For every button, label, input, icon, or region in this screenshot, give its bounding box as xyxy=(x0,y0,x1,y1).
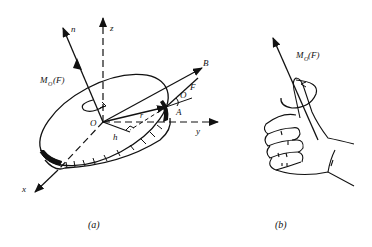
diagram-canvas: n z M O (F) B F O A O r h y x (a) xyxy=(0,0,372,247)
caption-b: (b) xyxy=(275,219,287,231)
hand-drawing xyxy=(264,78,354,186)
label-B: B xyxy=(203,58,209,68)
label-angle-O: O xyxy=(180,90,187,100)
label-moment-M: M xyxy=(39,75,48,85)
figure-a-moment-of-force: n z M O (F) B F O A O r h y x (a) xyxy=(21,18,218,231)
label-n: n xyxy=(71,24,76,34)
normal-inner-arrowhead xyxy=(73,58,82,70)
label-F: F xyxy=(189,82,196,92)
caption-a: (a) xyxy=(88,219,100,231)
label-moment-arg: (F) xyxy=(53,75,65,85)
right-angle-mark xyxy=(126,126,134,130)
x-axis xyxy=(35,170,58,192)
arm-h xyxy=(103,122,130,132)
angle-arc xyxy=(176,98,178,106)
x-axis-dashed xyxy=(58,122,103,170)
label-origin-O: O xyxy=(90,118,97,128)
label-moment-b-arg: (F) xyxy=(308,50,320,60)
disk-top xyxy=(25,55,182,184)
rotation-arc-icon xyxy=(82,100,104,111)
label-z: z xyxy=(109,23,114,33)
label-y: y xyxy=(195,126,200,136)
figure-b-right-hand-rule: M O (F) (b) xyxy=(264,38,354,231)
label-moment-b-M: M xyxy=(295,50,304,60)
label-x: x xyxy=(21,184,26,194)
label-h: h xyxy=(113,132,118,142)
force-line xyxy=(166,98,192,107)
curl-arrow-icon xyxy=(281,80,317,108)
position-vector-r xyxy=(103,107,166,122)
label-A: A xyxy=(175,107,182,117)
